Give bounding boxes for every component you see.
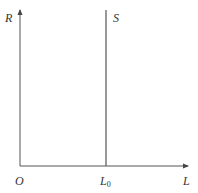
diagram-canvas xyxy=(0,0,198,193)
x-axis-label: L xyxy=(183,175,190,187)
l0-label: L0 xyxy=(100,175,111,189)
l0-label-subscript: 0 xyxy=(107,180,111,189)
origin-label: O xyxy=(15,175,24,187)
y-axis-label: R xyxy=(5,12,12,24)
supply-curve-label: S xyxy=(113,12,119,24)
l0-label-main: L xyxy=(100,174,107,188)
